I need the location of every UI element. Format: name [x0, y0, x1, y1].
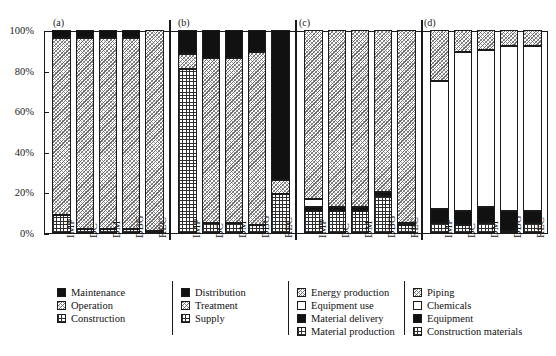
- legend-swatch-icon: [413, 327, 422, 336]
- x-tick-label-imp: IMP: [444, 219, 455, 238]
- legend-item[interactable]: Construction materials: [413, 325, 522, 338]
- legend-b: DistributionTreatmentSupply: [181, 286, 246, 325]
- bar-imp[interactable]: [304, 32, 323, 233]
- bar-segment: [454, 52, 473, 210]
- x-tick-label-rec: REC: [410, 217, 421, 238]
- y-tick-label: 0%: [20, 229, 34, 239]
- panel-letter-c: (c): [299, 18, 310, 28]
- y-tick-mark: [44, 193, 49, 194]
- bar-segment: [145, 30, 164, 231]
- bar-dbg[interactable]: [248, 32, 267, 233]
- x-tick-label-dm: DM: [112, 221, 123, 238]
- legend-item-label: Energy production: [311, 287, 389, 298]
- bar-dc[interactable]: [202, 32, 221, 233]
- legend-item-label: Operation: [71, 300, 113, 311]
- legend-swatch-icon: [181, 314, 190, 323]
- legend-item[interactable]: Distribution: [181, 286, 246, 299]
- legend-item[interactable]: Treatment: [181, 299, 246, 312]
- bar-segment: [351, 30, 370, 207]
- bar-segment: [430, 81, 449, 209]
- legend-divider: [288, 281, 289, 335]
- x-tick-label-dm: DM: [490, 221, 501, 238]
- bar-segment: [202, 58, 221, 222]
- bar-segment: [271, 180, 290, 194]
- panel-divider: [169, 20, 171, 240]
- legend-item[interactable]: Maintenance: [57, 286, 125, 299]
- panel-c: [297, 32, 423, 233]
- x-tick-label-dbg: DBG: [261, 215, 272, 238]
- bar-segment: [304, 30, 323, 198]
- y-tick-label: 40%: [15, 148, 34, 158]
- panel-b: [171, 32, 297, 233]
- bar-segment: [304, 207, 323, 211]
- y-tick-label: 20%: [15, 188, 34, 198]
- bar-segment: [304, 199, 323, 207]
- legend-item[interactable]: Equipment: [413, 312, 522, 325]
- panel-letter-a: (a): [53, 18, 64, 28]
- bar-dm[interactable]: [351, 32, 370, 233]
- bar-segment: [76, 30, 95, 38]
- bar-rec[interactable]: [523, 32, 542, 233]
- bar-segment: [248, 30, 267, 52]
- bar-imp[interactable]: [52, 32, 71, 233]
- bar-segment: [500, 30, 519, 46]
- bar-imp[interactable]: [178, 32, 197, 233]
- bar-segment: [99, 30, 118, 38]
- bar-dm[interactable]: [477, 32, 496, 233]
- legend-item[interactable]: Material production: [297, 325, 395, 338]
- legend-swatch-icon: [181, 301, 190, 310]
- bar-segment: [178, 69, 197, 233]
- bar-rec[interactable]: [271, 32, 290, 233]
- panel-a: [45, 32, 171, 233]
- legend-swatch-icon: [413, 301, 422, 310]
- panel-divider: [421, 20, 423, 240]
- legend-item-label: Equipment use: [311, 300, 374, 311]
- bar-rec[interactable]: [145, 32, 164, 233]
- x-tick-label-rec: REC: [284, 217, 295, 238]
- legend-item[interactable]: Supply: [181, 312, 246, 325]
- bar-dbg[interactable]: [500, 32, 519, 233]
- legend-item[interactable]: Operation: [57, 299, 125, 312]
- bar-segment: [248, 52, 267, 225]
- bar-dc[interactable]: [328, 32, 347, 233]
- bar-segment: [52, 38, 71, 215]
- bar-rec[interactable]: [397, 32, 416, 233]
- bar-dm[interactable]: [99, 32, 118, 233]
- legend-swatch-icon: [413, 288, 422, 297]
- legend-swatch-icon: [181, 288, 190, 297]
- bar-segment: [477, 30, 496, 50]
- bar-segment: [225, 58, 244, 222]
- legend-item-label: Material production: [311, 326, 395, 337]
- bar-segment: [523, 46, 542, 210]
- legend-item[interactable]: Construction: [57, 312, 125, 325]
- legend-item[interactable]: Equipment use: [297, 299, 395, 312]
- bar-segment: [225, 30, 244, 58]
- bar-segment: [328, 207, 347, 211]
- x-tick-label-dbg: DBG: [387, 215, 398, 238]
- bar-segment: [99, 38, 118, 229]
- y-tick-mark: [44, 234, 49, 235]
- legend-swatch-icon: [57, 301, 66, 310]
- legend-c: Energy productionEquipment useMaterial d…: [297, 286, 395, 338]
- bar-dbg[interactable]: [374, 32, 393, 233]
- bar-segment: [374, 30, 393, 192]
- legend-item[interactable]: Chemicals: [413, 299, 522, 312]
- bar-segment: [374, 192, 393, 196]
- panel-letter-d: (d): [424, 18, 436, 28]
- legend-swatch-icon: [57, 288, 66, 297]
- bar-dm[interactable]: [225, 32, 244, 233]
- legend-item[interactable]: Energy production: [297, 286, 395, 299]
- bar-dc[interactable]: [76, 32, 95, 233]
- legend-item[interactable]: Material delivery: [297, 312, 395, 325]
- bar-segment: [178, 54, 197, 68]
- bar-segment: [52, 30, 71, 38]
- legend-item[interactable]: Piping: [413, 286, 522, 299]
- bar-imp[interactable]: [430, 32, 449, 233]
- bar-dc[interactable]: [454, 32, 473, 233]
- y-tick-mark: [44, 112, 49, 113]
- bar-segment: [397, 30, 416, 223]
- y-tick-label: 60%: [15, 107, 34, 117]
- legend-swatch-icon: [57, 314, 66, 323]
- legend-divider: [172, 281, 173, 335]
- bar-dbg[interactable]: [122, 32, 141, 233]
